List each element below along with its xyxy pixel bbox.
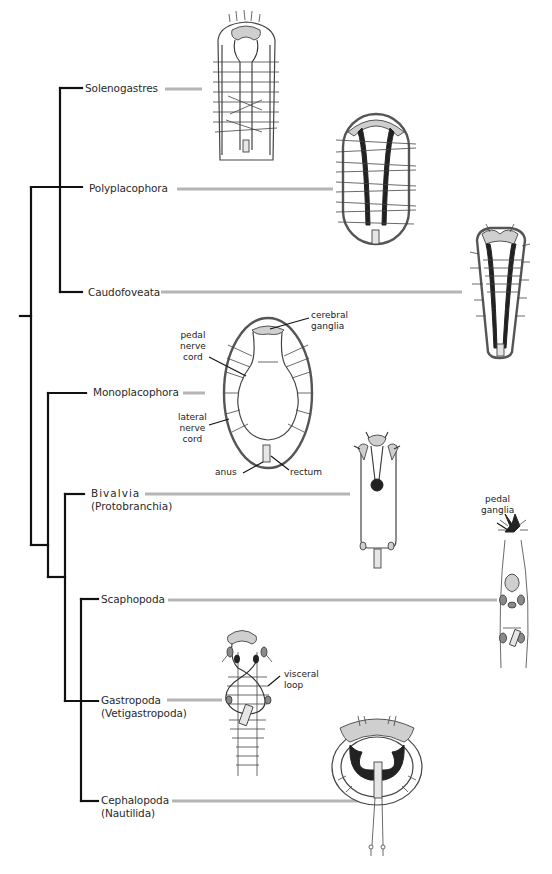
caudofoveata-illustration	[470, 224, 530, 358]
taxon-label-solenogastres: Solenogastres	[85, 82, 158, 95]
annotation-pedal-ganglia: pedal ganglia	[481, 494, 514, 516]
taxon-name: Monoplacophora	[93, 386, 179, 398]
taxon-name: Bivalvia	[91, 487, 172, 500]
annotation-visceral-loop: visceral loop	[284, 669, 319, 691]
scaphopoda-illustration	[497, 514, 528, 668]
taxon-label-caudofoveata: Caudofoveata	[88, 286, 160, 299]
phylogeny-diagram: Solenogastres Polyplacophora Caudofoveat…	[0, 0, 552, 874]
taxon-name: Polyplacophora	[89, 182, 168, 194]
cephalopoda-illustration	[332, 716, 422, 856]
taxon-label-gastropoda: Gastropoda (Vetigastropoda)	[101, 694, 187, 720]
taxon-label-cephalopoda: Cephalopoda (Nautilida)	[101, 794, 169, 820]
taxon-subname: (Protobranchia)	[91, 500, 172, 513]
taxon-subname: (Vetigastropoda)	[101, 707, 187, 720]
taxon-name: Caudofoveata	[88, 286, 160, 298]
polyplacophora-illustration	[336, 114, 416, 244]
taxon-label-scaphopoda: Scaphopoda	[101, 593, 165, 606]
taxon-label-monoplacophora: Monoplacophora	[93, 386, 179, 399]
bivalvia-illustration	[354, 432, 400, 568]
annotation-cerebral-ganglia: cerebral ganglia	[311, 310, 348, 332]
annotation-pedal-nerve-cord: pedal nerve cord	[180, 330, 206, 363]
taxon-name: Cephalopoda	[101, 794, 169, 807]
taxon-name: Gastropoda	[101, 694, 187, 707]
taxon-subname: (Nautilida)	[101, 807, 169, 820]
diagram-canvas	[0, 0, 552, 874]
solenogastres-illustration	[213, 10, 279, 160]
annotation-rectum: rectum	[290, 467, 322, 478]
gastropoda-illustration	[222, 631, 280, 777]
connector-lines	[145, 89, 497, 801]
taxon-label-bivalvia: Bivalvia (Protobranchia)	[91, 487, 172, 513]
monoplacophora-illustration	[209, 318, 312, 473]
cladogram-tree	[20, 88, 98, 801]
taxon-name: Solenogastres	[85, 82, 158, 94]
taxon-name: Scaphopoda	[101, 593, 165, 605]
annotation-lateral-nerve-cord: lateral nerve cord	[178, 412, 207, 445]
annotation-anus: anus	[215, 467, 237, 478]
taxon-label-polyplacophora: Polyplacophora	[89, 182, 168, 195]
